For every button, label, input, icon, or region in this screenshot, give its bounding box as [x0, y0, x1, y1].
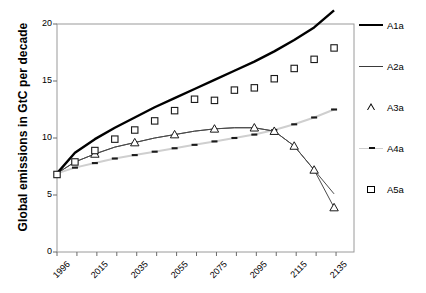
- legend-item-a2a[interactable]: A2a: [358, 59, 426, 73]
- legend-key-line-icon: [359, 24, 383, 26]
- series-marker-A5a: [311, 56, 317, 62]
- legend-item-a3a[interactable]: A3a: [358, 100, 426, 114]
- series-marker-A5a: [231, 87, 237, 93]
- legend-key-square-icon: [367, 186, 375, 194]
- legend-label: A2a: [387, 61, 404, 72]
- legend-key: [358, 182, 384, 196]
- legend-item-a1a[interactable]: A1a: [358, 18, 426, 32]
- legend-label: A4a: [387, 143, 404, 154]
- series-marker-A3a: [290, 142, 298, 149]
- legend-key-dash-icon: [369, 147, 375, 149]
- legend-key: [358, 141, 384, 155]
- series-marker-A5a: [211, 97, 217, 103]
- series-marker-A5a: [151, 118, 157, 124]
- series-marker-A5a: [331, 45, 337, 51]
- legend-key: [358, 59, 384, 73]
- series-marker-A5a: [112, 136, 118, 142]
- legend-label: A1a: [387, 20, 404, 31]
- series-line-A3a: [57, 128, 334, 208]
- legend-key: [358, 18, 384, 32]
- legend-label: A3a: [387, 102, 404, 113]
- series-marker-A5a: [132, 127, 138, 133]
- series-marker-A5a: [72, 159, 78, 165]
- legend-label: A5a: [387, 184, 404, 195]
- chart-legend: A1aA2aA3aA4aA5a: [358, 18, 426, 208]
- series-marker-A5a: [271, 76, 277, 82]
- series-marker-A5a: [191, 96, 197, 102]
- legend-key: [358, 100, 384, 114]
- series-marker-A5a: [54, 171, 60, 177]
- legend-item-a4a[interactable]: A4a: [358, 141, 426, 155]
- series-marker-A5a: [251, 85, 257, 91]
- series-marker-A3a: [330, 203, 338, 210]
- plot-frame: [57, 24, 354, 252]
- series-marker-A5a: [92, 147, 98, 153]
- series-marker-A5a: [171, 107, 177, 113]
- legend-key-line-icon: [359, 66, 383, 67]
- series-marker-A5a: [291, 65, 297, 71]
- legend-key-triangle-icon: [367, 103, 375, 110]
- emissions-chart-figure: Global emissions in GtC per decade 05101…: [0, 0, 426, 293]
- series-line-A4a: [57, 110, 334, 174]
- legend-item-a5a[interactable]: A5a: [358, 182, 426, 196]
